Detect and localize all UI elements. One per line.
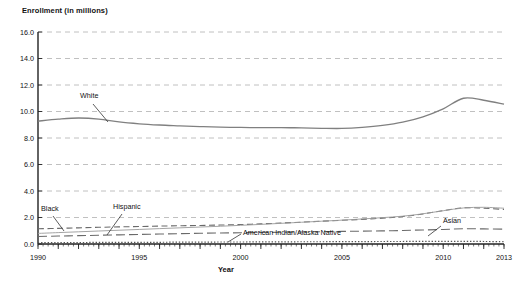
y-tick-label: 6.0 <box>24 160 34 169</box>
data-series-group <box>38 98 504 243</box>
line-chart-plot: 0.02.04.06.08.010.012.014.016.0 19901995… <box>0 0 514 283</box>
x-tick-label: 2005 <box>334 253 350 262</box>
y-tick-label: 10.0 <box>20 107 34 116</box>
series-line-american-indian-alaska-native <box>38 241 504 242</box>
x-tick-label: 2013 <box>496 253 512 262</box>
y-tick-label: 4.0 <box>24 187 34 196</box>
x-tick-label: 2010 <box>435 253 451 262</box>
y-tick-label: 12.0 <box>20 81 34 90</box>
series-label-white: White <box>80 91 98 100</box>
series-line-white <box>38 98 504 129</box>
y-tick-label: 0.0 <box>24 240 34 249</box>
y-tick-label: 8.0 <box>24 134 34 143</box>
x-axis-ticks-group: 199019952000200520102013 <box>30 244 512 262</box>
leader-line-american-indian-alaska-native <box>228 234 241 242</box>
y-tick-label: 14.0 <box>20 54 34 63</box>
y-tick-label: 16.0 <box>20 28 34 37</box>
series-line-black <box>38 208 504 229</box>
series-label-american-indian-alaska-native: American Indian/Alaska Native <box>243 228 341 237</box>
leader-line-asian <box>428 226 441 236</box>
series-label-asian: Asian <box>443 216 461 225</box>
gridlines-group <box>38 32 504 218</box>
series-annotations-group: WhiteBlackHispanicAmerican Indian/Alaska… <box>41 91 461 242</box>
x-tick-label: 1990 <box>30 253 46 262</box>
series-label-hispanic: Hispanic <box>113 202 141 211</box>
chart-page: Enrollment (in millions) Year 0.02.04.06… <box>0 0 514 283</box>
series-label-black: Black <box>41 204 59 213</box>
x-tick-label: 2000 <box>233 253 249 262</box>
y-tick-label: 2.0 <box>24 213 34 222</box>
x-tick-label: 1995 <box>131 253 147 262</box>
